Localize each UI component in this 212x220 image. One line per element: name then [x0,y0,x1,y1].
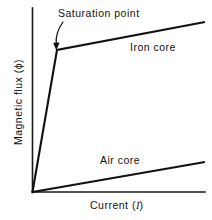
air-core-series-label: Air core [100,154,140,166]
chart-canvas [0,0,212,220]
saturation-point-annotation-label: Saturation point [58,7,140,19]
iron-core-series-label: Iron core [130,41,176,53]
x-axis-label-prefix: Current ( [90,199,136,211]
air-core-line [33,162,206,192]
y-axis-label-suffix: ) [12,59,24,63]
y-axis-label-symbol: ϕ [12,63,24,69]
x-axis-label: Current (I) [90,199,143,212]
magnetic-flux-chart-figure: Saturation point Iron core Air core Curr… [0,0,212,220]
x-axis-label-suffix: ) [139,199,143,211]
y-axis-label: Magnetic flux (ϕ) [12,52,24,152]
saturation-arrow-shaft [56,22,63,44]
y-axis-label-prefix: Magnetic flux ( [12,69,24,145]
